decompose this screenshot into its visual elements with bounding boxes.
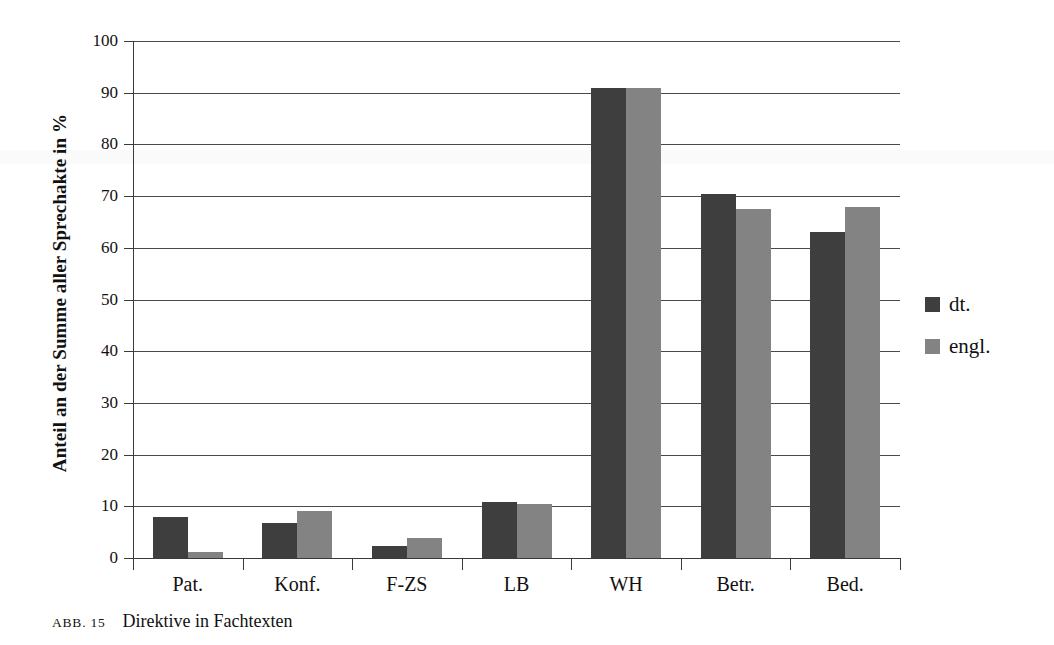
y-tick-mark-70 xyxy=(124,196,134,197)
x-tick-label-wh: WH xyxy=(566,573,686,595)
x-tick-mark xyxy=(790,558,791,570)
x-tick-mark xyxy=(571,558,572,570)
legend-label: dt. xyxy=(949,294,971,315)
y-tick-label-10: 10 xyxy=(64,497,118,514)
y-tick-label-30: 30 xyxy=(64,394,118,411)
bar xyxy=(297,511,332,558)
x-tick-mark xyxy=(681,558,682,570)
y-tick-label-0: 0 xyxy=(64,549,118,566)
y-tick-mark-20 xyxy=(124,455,134,456)
x-tick-mark xyxy=(900,558,901,570)
bar xyxy=(482,502,517,558)
bar xyxy=(845,207,880,558)
x-tick-mark xyxy=(133,558,134,570)
y-tick-label-90: 90 xyxy=(64,84,118,101)
bar-group xyxy=(810,41,880,558)
figure-root: Anteil an der Summe aller Sprechakte in … xyxy=(0,0,1054,645)
legend-item: dt. xyxy=(925,283,1045,325)
y-tick-mark-40 xyxy=(124,351,134,352)
x-tick-label-konf: Konf. xyxy=(237,573,357,595)
figure-caption-text: Direktive in Fachtexten xyxy=(123,611,293,632)
y-tick-label-60: 60 xyxy=(64,239,118,256)
bar xyxy=(736,209,771,558)
y-tick-mark-30 xyxy=(124,403,134,404)
y-tick-mark-90 xyxy=(124,93,134,94)
x-tick-mark xyxy=(462,558,463,570)
y-tick-label-70: 70 xyxy=(64,187,118,204)
bar xyxy=(591,88,626,558)
bar xyxy=(701,194,736,558)
legend-label: engl. xyxy=(949,336,990,357)
x-axis-line xyxy=(133,558,900,559)
bar xyxy=(372,546,407,558)
legend-item: engl. xyxy=(925,325,1045,367)
y-tick-mark-100 xyxy=(124,41,134,42)
y-tick-label-80: 80 xyxy=(64,135,118,152)
x-tick-label-pat: Pat. xyxy=(128,573,248,595)
y-axis-ticks: 0102030405060708090100 xyxy=(0,0,118,645)
y-tick-label-20: 20 xyxy=(64,446,118,463)
x-tick-label-betr: Betr. xyxy=(676,573,796,595)
plot-area xyxy=(133,41,900,558)
bar xyxy=(517,504,552,558)
bar-group xyxy=(262,41,332,558)
x-tick-label-lb: LB xyxy=(457,573,577,595)
x-tick-mark xyxy=(243,558,244,570)
y-tick-label-40: 40 xyxy=(64,342,118,359)
y-tick-mark-50 xyxy=(124,300,134,301)
bar-group xyxy=(482,41,552,558)
legend: dt.engl. xyxy=(925,283,1045,367)
figure-caption: ABB. 15 Direktive in Fachtexten xyxy=(52,611,293,632)
legend-swatch-icon xyxy=(925,339,940,354)
legend-swatch-icon xyxy=(925,297,940,312)
bar-group xyxy=(153,41,223,558)
y-tick-label-100: 100 xyxy=(64,32,118,49)
bar xyxy=(153,517,188,558)
y-tick-mark-80 xyxy=(124,144,134,145)
x-tick-mark xyxy=(352,558,353,570)
bar xyxy=(262,523,297,558)
bar xyxy=(810,232,845,558)
x-tick-label-fzs: F-ZS xyxy=(347,573,467,595)
bar-group xyxy=(591,41,661,558)
bar xyxy=(407,538,442,558)
x-tick-label-bed: Bed. xyxy=(785,573,905,595)
bar-group xyxy=(372,41,442,558)
bar-group xyxy=(701,41,771,558)
y-tick-label-50: 50 xyxy=(64,291,118,308)
figure-caption-tag: ABB. 15 xyxy=(52,615,106,631)
y-tick-mark-60 xyxy=(124,248,134,249)
bar xyxy=(626,88,661,558)
y-tick-mark-10 xyxy=(124,506,134,507)
